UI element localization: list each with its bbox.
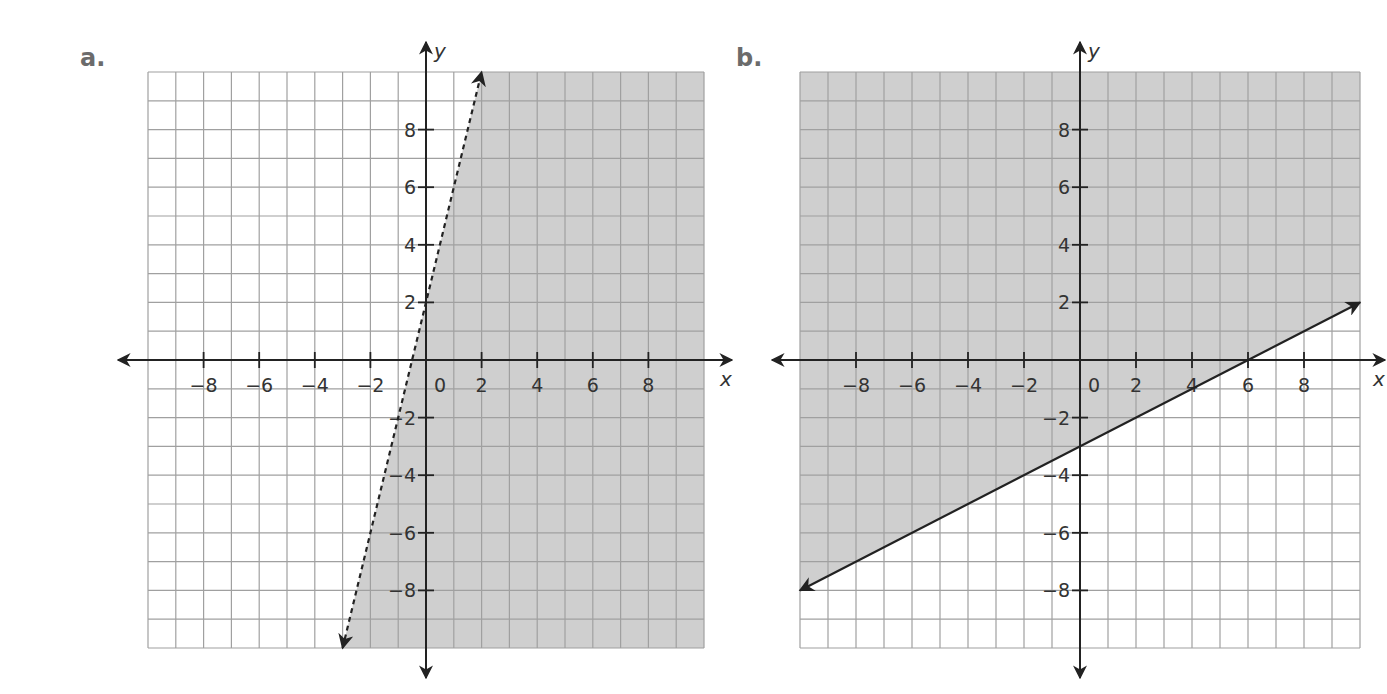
y-tick-label: −6: [388, 522, 416, 544]
y-axis-label: y: [1087, 39, 1101, 63]
y-tick-label: 4: [1058, 234, 1070, 256]
inequality-graphs: −8−6−4−2024688642−2−4−6−8xy −8−6−4−20246…: [0, 0, 1387, 694]
y-tick-label: −8: [388, 579, 416, 601]
y-tick-label: −4: [1042, 464, 1070, 486]
y-tick-label: 8: [1058, 119, 1070, 141]
x-tick-label: −4: [301, 374, 329, 396]
y-tick-label: 6: [1058, 176, 1070, 198]
x-tick-label: 6: [1242, 374, 1254, 396]
y-tick-label: 8: [404, 119, 416, 141]
y-tick-label: −6: [1042, 522, 1070, 544]
x-tick-label: −8: [190, 374, 218, 396]
x-tick-label: −6: [898, 374, 926, 396]
y-tick-label: 2: [1058, 291, 1070, 313]
x-tick-label: −2: [1010, 374, 1038, 396]
x-tick-label: 2: [476, 374, 488, 396]
x-axis-label: x: [719, 367, 732, 391]
x-axis-label: x: [1372, 367, 1385, 391]
y-tick-label: 2: [404, 291, 416, 313]
x-tick-label: 8: [642, 374, 654, 396]
y-tick-label: −2: [388, 407, 416, 429]
graph-a: −8−6−4−2024688642−2−4−6−8xy: [118, 39, 732, 678]
x-tick-label: −6: [245, 374, 273, 396]
x-tick-label: 4: [1186, 374, 1198, 396]
x-tick-label: −4: [954, 374, 982, 396]
x-tick-label: 6: [587, 374, 599, 396]
x-tick-label: 2: [1130, 374, 1142, 396]
x-tick-label: −8: [842, 374, 870, 396]
y-axis-label: y: [433, 39, 447, 63]
x-tick-label: 0: [1088, 374, 1100, 396]
x-tick-label: −2: [356, 374, 384, 396]
x-tick-label: 4: [531, 374, 543, 396]
x-tick-label: 0: [434, 374, 446, 396]
y-tick-label: −8: [1042, 579, 1070, 601]
y-tick-label: −4: [388, 464, 416, 486]
y-tick-label: 6: [404, 176, 416, 198]
y-tick-label: −2: [1042, 407, 1070, 429]
graph-b: −8−6−4−2024688642−2−4−6−8xy: [772, 39, 1385, 678]
x-tick-label: 8: [1298, 374, 1310, 396]
y-tick-label: 4: [404, 234, 416, 256]
